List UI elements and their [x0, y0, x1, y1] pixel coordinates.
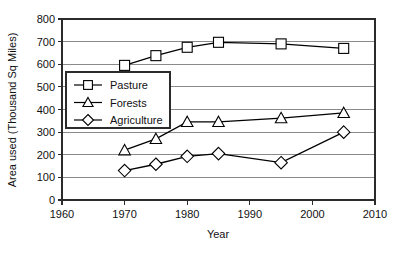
y-axis-tick-label: 100 — [37, 171, 55, 183]
y-axis-title: Area used (Thousand Sq Miles) — [6, 33, 18, 188]
data-point-marker-square — [339, 43, 349, 53]
series-agriculture — [118, 126, 350, 177]
data-point-marker-triangle — [150, 133, 162, 143]
data-point-marker-diamond — [337, 126, 350, 139]
legend-item-label: Agriculture — [110, 114, 163, 126]
legend-item-label: Forests — [110, 97, 147, 109]
x-axis-tick-label: 1990 — [238, 208, 262, 220]
y-axis-tick-label: 200 — [37, 149, 55, 161]
data-point-marker-square — [214, 37, 224, 47]
x-axis-tick-label: 2000 — [300, 208, 324, 220]
x-axis-title: Year — [207, 228, 230, 240]
data-point-marker-triangle — [338, 107, 350, 117]
y-axis-tick-label: 800 — [37, 13, 55, 25]
y-axis-tick-labels-group: 0100200300400500600700800 — [37, 13, 55, 206]
data-point-marker-square — [151, 51, 161, 61]
x-axis-tick-label: 1960 — [50, 208, 74, 220]
y-axis-tick-label: 400 — [37, 104, 55, 116]
y-axis-tick-label: 500 — [37, 81, 55, 93]
series-pasture — [120, 37, 349, 70]
data-point-marker-triangle — [119, 144, 131, 154]
y-axis-tick-label: 300 — [37, 126, 55, 138]
data-point-marker-diamond — [118, 164, 131, 177]
y-axis-tick-label: 0 — [49, 194, 55, 206]
data-point-marker-diamond — [212, 147, 225, 160]
x-axis-tick-label: 2010 — [363, 208, 387, 220]
x-axis-tick-label: 1980 — [175, 208, 199, 220]
data-point-marker-diamond — [275, 156, 288, 169]
data-point-marker-square — [276, 39, 286, 49]
chart-legend: PastureForestsAgriculture — [66, 72, 170, 128]
data-point-marker-diamond — [150, 158, 163, 171]
y-axis-tick-label: 600 — [37, 58, 55, 70]
chart-container: 0100200300400500600700800 19601970198019… — [0, 0, 406, 254]
data-point-marker-square — [84, 81, 93, 90]
data-point-marker-diamond — [181, 150, 194, 163]
line-chart: 0100200300400500600700800 19601970198019… — [0, 0, 406, 254]
data-point-marker-square — [120, 60, 130, 70]
x-axis-tick-labels-group: 196019701980199020002010 — [50, 208, 387, 220]
legend-item-label: Pasture — [110, 79, 148, 91]
legend-item-pasture: Pasture — [74, 79, 148, 91]
y-axis-tick-label: 700 — [37, 36, 55, 48]
x-axis-ticks-group — [62, 200, 375, 205]
x-axis-tick-label: 1970 — [112, 208, 136, 220]
data-point-marker-square — [182, 42, 192, 52]
legend-item-agriculture: Agriculture — [74, 114, 163, 126]
